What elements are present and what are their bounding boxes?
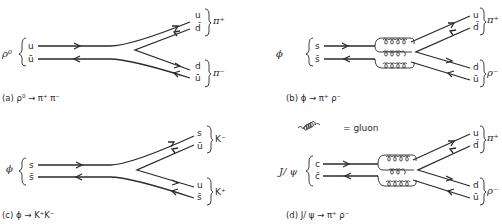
product-meson-label: π⁻: [212, 67, 225, 78]
product-quark-label: s: [197, 128, 202, 138]
panel-b-phi-to-pi-rho: ϕ s s̄ u d̄ π⁺ d ū ρ⁻ (b) ϕ → π: [276, 8, 499, 103]
gluon-exchange: [375, 38, 414, 68]
product-quark-label: u: [197, 180, 203, 190]
antiquark-label: c̄: [315, 171, 320, 181]
panel-d-jpsi-decay: = gluon J/ ψ c c̄ u d̄ π⁺ d ū ρ⁻: [277, 122, 499, 220]
panel-caption: (b) ϕ → π⁺ ρ⁻: [286, 93, 341, 103]
gluon-icon: [383, 39, 407, 44]
product-quark-label: ū: [473, 74, 479, 84]
product-quark-label: d̄: [195, 22, 202, 33]
brace-icon: [207, 126, 213, 153]
product-meson-label: π⁺: [486, 132, 499, 143]
panel-a-rho-decay: ρ⁰ u ū u d̄ π⁺ d ū π⁻ (a) ρ⁰ → π⁺ π⁻: [1, 9, 225, 103]
product-quark-label: u: [473, 10, 479, 20]
gluon-legend-icon: [298, 122, 320, 131]
quark-line: [413, 134, 470, 160]
quark-label: s: [315, 41, 320, 51]
product-quark-label: d̄: [473, 21, 480, 32]
quark-pair-line: [416, 28, 470, 68]
brace-icon: [205, 60, 211, 87]
gluon-icon: [386, 156, 410, 161]
parent-particle-label: ρ⁰: [1, 48, 12, 59]
product-quark-label: ū: [195, 73, 201, 83]
quark-pair-creation-line: [135, 29, 190, 70]
product-quark-label: d: [195, 61, 201, 71]
quark-line: [38, 136, 194, 165]
panel-c-phi-to-kaons: ϕ s s̄ s ū K⁻ u s̄ K⁺ (c) ϕ → K⁺K⁻: [2, 126, 226, 220]
product-quark-label: d: [473, 62, 479, 72]
antiquark-label: ū: [28, 54, 34, 64]
product-meson-label: π⁺: [486, 14, 499, 25]
panel-caption: (c) ϕ → K⁺K⁻: [2, 210, 54, 220]
quark-line-u: [38, 22, 190, 46]
brace-icon: [19, 158, 26, 185]
product-meson-label: π⁺: [212, 15, 225, 26]
parent-particle-label: J/ ψ: [277, 166, 298, 177]
gluon-exchange: [378, 155, 416, 186]
product-quark-label: ū: [473, 192, 479, 202]
brace-icon: [480, 60, 486, 87]
parent-particle-label: ϕ: [276, 48, 283, 59]
quark-line: [411, 16, 470, 42]
quark-label: u: [28, 41, 34, 51]
brace-icon: [205, 9, 211, 36]
gluon-icon: [386, 181, 410, 186]
product-quark-label: ū: [197, 141, 203, 151]
quark-pair-line: [137, 145, 194, 187]
product-meson-label: ρ⁻: [486, 185, 498, 196]
panel-caption: (a) ρ⁰ → π⁺ π⁻: [2, 93, 60, 103]
brace-icon: [19, 38, 26, 66]
arrow-icon: [168, 142, 174, 147]
brace-icon: [207, 178, 213, 205]
antiquark-label: s̄: [315, 54, 320, 64]
product-quark-label: s̄: [197, 192, 202, 202]
parent-particle-label: ϕ: [6, 163, 13, 174]
product-meson-label: K⁻: [215, 134, 226, 144]
quark-label: s: [29, 160, 34, 170]
product-quark-label: d: [473, 180, 479, 190]
gluon-icon: [383, 51, 405, 56]
gluon-legend-label: = gluon: [343, 123, 379, 133]
product-quark-label: u: [195, 10, 201, 20]
quark-pair-line: [418, 146, 470, 186]
brace-icon: [480, 126, 486, 153]
gluon-icon: [383, 63, 407, 68]
brace-icon: [306, 38, 313, 66]
product-quark-label: u: [473, 128, 479, 138]
brace-icon: [480, 8, 486, 35]
panel-caption: (d) J/ ψ → π⁺ ρ⁻: [286, 210, 349, 220]
product-meson-label: K⁺: [215, 187, 226, 197]
product-meson-label: ρ⁻: [486, 67, 498, 78]
antiquark-label: s̄: [29, 172, 34, 182]
brace-icon: [480, 178, 486, 205]
product-quark-label: d̄: [473, 139, 480, 150]
quark-label: c: [315, 159, 320, 169]
brace-icon: [306, 156, 313, 186]
